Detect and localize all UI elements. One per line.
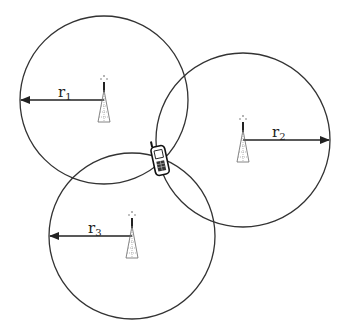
mobile-phone-icon [149,139,170,176]
cell-tower-icon [98,75,110,122]
radius-label-3: r3 [88,219,102,238]
trilateration-diagram: r1 r2 r3 [0,0,346,330]
radius-label-1: r1 [58,83,72,102]
cell-tower-icon [126,211,138,258]
cell-tower-icon [237,115,249,162]
radius-label-2: r2 [272,123,286,142]
